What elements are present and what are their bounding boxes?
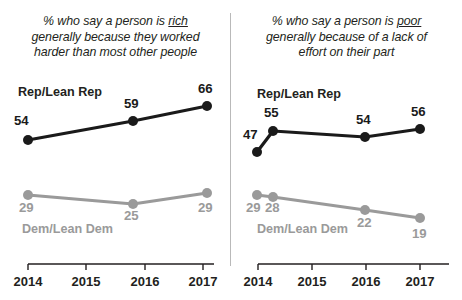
panel-poor-rep-point	[268, 126, 278, 136]
panel-rich-dem-value: 25	[124, 208, 139, 223]
panel-rich: % who say a person is rich generally bec…	[0, 0, 231, 300]
panel-rich-rep-line	[28, 106, 207, 140]
panel-poor-dem-point	[415, 213, 425, 223]
panel-poor-rep-value: 47	[243, 127, 258, 142]
panel-rich-rep-value: 66	[198, 81, 213, 96]
panel-rich-plot	[0, 0, 231, 300]
panel-poor-axis-label: 2016	[352, 274, 381, 289]
panel-poor-dem-value: 22	[357, 215, 372, 230]
panel-rich-axis-label: 2016	[131, 274, 160, 289]
panel-rich-axis-label: 2014	[14, 274, 43, 289]
panel-poor-dem-value: 19	[412, 226, 427, 241]
panel-poor-dem-value: 28	[265, 200, 280, 215]
panel-poor-x-axis	[258, 264, 449, 270]
panel-poor-dem-value: 29	[246, 200, 261, 215]
panel-poor-axis-label: 2015	[298, 274, 327, 289]
panel-poor-rep-line	[257, 129, 420, 152]
panel-rich-x-axis	[28, 264, 214, 270]
panel-rich-dem-point	[23, 190, 33, 200]
panel-rich-rep-point	[23, 135, 33, 145]
panel-rich-rep-series-label: Rep/Lean Rep	[18, 85, 102, 99]
panel-rich-rep-value: 54	[14, 113, 29, 128]
panel-rich-rep-point	[202, 101, 212, 111]
panel-poor-rep-value: 56	[411, 104, 426, 119]
panel-rich-rep-point	[128, 116, 138, 126]
panel-poor-rep-point	[252, 147, 262, 157]
panel-rich-axis-label: 2015	[72, 274, 101, 289]
panel-rich-dem-value: 29	[198, 200, 213, 215]
panel-rich-dem-value: 29	[19, 200, 34, 215]
panel-poor-axis-label: 2014	[244, 274, 273, 289]
panel-poor-rep-point	[360, 132, 370, 142]
panel-poor-dem-series-label: Dem/Lean Dem	[257, 222, 348, 236]
panel-poor-rep-point	[415, 124, 425, 134]
panel-poor-rep-series-label: Rep/Lean Rep	[257, 87, 341, 101]
two-panel-line-chart: % who say a person is rich generally bec…	[0, 0, 462, 300]
panel-rich-axis-label: 2017	[189, 274, 218, 289]
panel-rich-rep-value: 59	[124, 96, 139, 111]
panel-poor-dem-point	[252, 190, 262, 200]
panel-poor: % who say a person is poor generally bec…	[231, 0, 462, 300]
panel-rich-dem-point	[202, 188, 212, 198]
panel-poor-rep-value: 54	[356, 112, 371, 127]
panel-poor-plot	[231, 0, 462, 300]
panel-poor-dem-point	[360, 205, 370, 215]
panel-poor-axis-label: 2017	[406, 274, 435, 289]
panel-poor-dem-line	[257, 195, 420, 218]
panel-poor-rep-value: 55	[264, 105, 279, 120]
panel-rich-dem-series-label: Dem/Lean Dem	[22, 222, 113, 236]
panel-rich-dem-line	[28, 193, 207, 204]
